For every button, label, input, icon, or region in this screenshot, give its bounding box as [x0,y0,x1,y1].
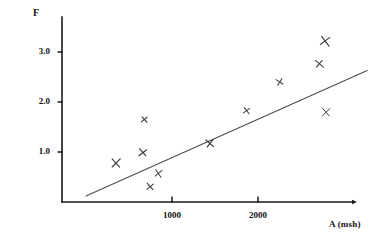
trend-line-group [86,71,367,197]
data-point-marker [112,159,120,167]
axes-group [62,17,357,204]
x-axis-title: A (msh) [329,219,361,229]
data-point-marker [139,149,146,156]
data-points-group [112,36,330,190]
data-point-marker [276,78,283,85]
data-point-marker [147,183,154,190]
marker-stroke [320,36,329,45]
trend-line [86,71,367,197]
x-tick-label: 2000 [238,210,278,220]
data-point-marker [322,108,330,116]
tick-marks-group [58,52,259,203]
marker-stroke [277,78,283,85]
data-point-marker [320,36,330,46]
x-tick-label: 1000 [152,210,192,220]
data-point-marker [315,60,323,68]
scatter-plot [0,0,388,243]
marker-stroke [243,108,249,113]
data-point-marker [154,169,162,177]
y-tick-label: 1.0 [24,146,50,156]
y-tick-label: 3.0 [24,46,50,56]
data-point-marker [141,117,147,123]
y-axis-title: F [33,7,39,18]
x-axis-arrow [352,200,357,204]
y-tick-label: 2.0 [24,96,50,106]
data-point-marker [243,108,249,114]
chart-figure: F A (msh) 1.02.03.010002000 [0,0,388,243]
